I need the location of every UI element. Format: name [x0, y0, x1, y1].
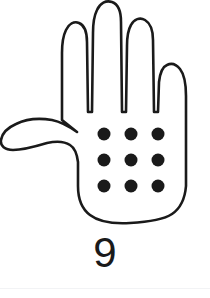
dot [98, 154, 111, 167]
numeral-label: 9 [0, 231, 210, 275]
dot [98, 180, 111, 193]
dot [125, 128, 138, 141]
dot [152, 180, 165, 193]
hand-counting-card: 9 [0, 0, 210, 298]
dot [98, 128, 111, 141]
dot-grid [98, 128, 165, 193]
dot [125, 154, 138, 167]
bottom-divider [0, 288, 210, 289]
dot [152, 128, 165, 141]
hand-illustration [0, 0, 210, 232]
dot [125, 180, 138, 193]
dot [152, 154, 165, 167]
